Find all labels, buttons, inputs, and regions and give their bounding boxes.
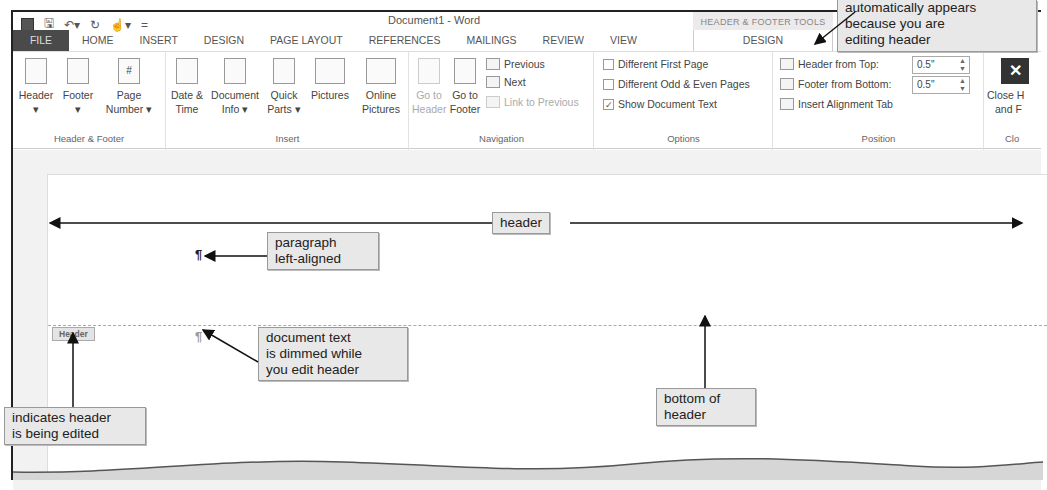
- go-to-header-button[interactable]: Go to Header: [412, 56, 446, 116]
- group-label-insert: Insert: [167, 133, 408, 144]
- tab-review[interactable]: REVIEW: [530, 30, 597, 51]
- previous-button[interactable]: Previous: [486, 58, 545, 70]
- callout-line: automatically appears: [845, 0, 1029, 16]
- header-button-label: Header: [15, 88, 57, 102]
- dropdown-arrow: ▾: [58, 102, 98, 116]
- footer-from-bottom-label-row: Footer from Bottom:: [780, 78, 891, 90]
- different-first-page-label: Different First Page: [618, 58, 708, 70]
- pictures-icon: [315, 58, 345, 84]
- close-header-footer-button[interactable]: ✕ Close H and F: [987, 56, 1047, 116]
- checkbox-unchecked-icon: [603, 79, 614, 90]
- page-number-label-1: Page: [101, 88, 157, 102]
- show-document-text-label: Show Document Text: [618, 98, 717, 110]
- header-icon: [25, 58, 47, 84]
- footer-from-bottom-value: 0.5": [917, 79, 934, 90]
- footer-position-icon: [780, 78, 794, 90]
- go-to-footer-label-1: Go to: [448, 88, 482, 102]
- header-from-top-input[interactable]: 0.5" ▲▼: [912, 56, 970, 74]
- header-from-top-label-row: Header from Top:: [780, 58, 879, 70]
- callout-document-text-dimmed: document text is dimmed while you edit h…: [258, 327, 408, 381]
- online-pictures-label-2: Pictures: [357, 102, 405, 116]
- previous-icon: [486, 58, 500, 70]
- quick-parts-label-1: Quick: [265, 88, 303, 102]
- date-time-button[interactable]: Date & Time: [169, 56, 205, 116]
- callout-line: you edit header: [266, 362, 400, 378]
- header-button[interactable]: Header ▾: [15, 56, 57, 116]
- callout-line: because you are: [845, 16, 1029, 32]
- pictures-button[interactable]: Pictures: [305, 56, 355, 102]
- ribbon: Header ▾ Footer ▾ # Page Number ▾ Header…: [13, 51, 1041, 149]
- tab-home[interactable]: HOME: [69, 30, 127, 51]
- different-first-page-checkbox[interactable]: Different First Page: [603, 58, 708, 70]
- link-to-previous-button[interactable]: Link to Previous: [486, 96, 579, 108]
- header-tab-label: Header: [52, 327, 95, 341]
- date-time-label-2: Time: [169, 102, 205, 116]
- dropdown-arrow: ▾: [15, 102, 57, 116]
- next-button[interactable]: Next: [486, 76, 526, 88]
- header-from-top-label: Header from Top:: [798, 58, 879, 70]
- paragraph-mark: ¶: [195, 247, 202, 262]
- group-position: Header from Top: 0.5" ▲▼ Footer from Bot…: [774, 52, 984, 150]
- go-to-header-label-1: Go to: [412, 88, 446, 102]
- callout-line: header: [664, 407, 748, 423]
- group-label-position: Position: [774, 133, 983, 144]
- spinner-arrows-icon[interactable]: ▲▼: [959, 57, 966, 73]
- previous-label: Previous: [504, 58, 545, 70]
- show-document-text-checkbox[interactable]: ✓ Show Document Text: [603, 98, 717, 110]
- spinner-arrows-icon[interactable]: ▲▼: [959, 77, 966, 93]
- tab-mailings[interactable]: MAILINGS: [453, 30, 529, 51]
- go-to-footer-button[interactable]: Go to Footer: [448, 56, 482, 116]
- callout-indicates-header-edited: indicates header is being edited: [4, 407, 146, 445]
- footer-button[interactable]: Footer ▾: [58, 56, 98, 116]
- page-number-button[interactable]: # Page Number ▾: [101, 56, 157, 116]
- footer-button-label: Footer: [58, 88, 98, 102]
- page-number-label-2: Number ▾: [101, 102, 157, 116]
- callout-line: document text: [266, 330, 400, 346]
- next-label: Next: [504, 76, 526, 88]
- online-pictures-button[interactable]: Online Pictures: [357, 56, 405, 116]
- tab-design[interactable]: DESIGN: [191, 30, 257, 51]
- dimmed-paragraph-mark: ¶: [195, 329, 202, 344]
- tab-insert[interactable]: INSERT: [127, 30, 191, 51]
- callout-paragraph-left-aligned: paragraph left-aligned: [267, 232, 379, 270]
- document-area: ¶ Header ¶: [13, 150, 1041, 490]
- document-info-label-1: Document: [207, 88, 263, 102]
- group-label-options: Options: [595, 133, 772, 144]
- document-info-label-2: Info ▾: [207, 102, 263, 116]
- go-to-header-icon: [418, 58, 440, 84]
- tab-references[interactable]: REFERENCES: [356, 30, 454, 51]
- callout-line: paragraph: [275, 235, 371, 251]
- group-label-header-footer: Header & Footer: [13, 133, 165, 144]
- link-to-previous-icon: [486, 96, 500, 108]
- torn-edge: [13, 450, 1043, 480]
- go-to-header-label-2: Header: [412, 102, 446, 116]
- callout-header: header: [492, 212, 550, 234]
- callout-line: indicates header: [12, 410, 138, 426]
- close-icon: ✕: [1001, 58, 1029, 84]
- tab-view[interactable]: VIEW: [597, 30, 650, 51]
- footer-from-bottom-input[interactable]: 0.5" ▲▼: [912, 76, 970, 94]
- quick-parts-label-2: Parts ▾: [265, 102, 303, 116]
- header-from-top-value: 0.5": [917, 59, 934, 70]
- footer-icon: [67, 58, 89, 84]
- group-navigation: Go to Header Go to Footer Previous Next …: [410, 52, 594, 150]
- group-options: Different First Page Different Odd & Eve…: [595, 52, 773, 150]
- quick-parts-button[interactable]: Quick Parts ▾: [265, 56, 303, 116]
- callout-line: is dimmed while: [266, 346, 400, 362]
- checkbox-checked-icon: ✓: [603, 99, 614, 110]
- tab-page-layout[interactable]: PAGE LAYOUT: [257, 30, 356, 51]
- insert-alignment-tab-button[interactable]: Insert Alignment Tab: [780, 98, 893, 110]
- callout-line: editing header: [845, 32, 1029, 48]
- callout-line: left-aligned: [275, 251, 371, 267]
- word-window: 🖫 ↶▾ ↻ ☝▾ = Document1 - Word HEADER & FO…: [11, 10, 1041, 480]
- tab-file[interactable]: FILE: [13, 30, 69, 51]
- quick-parts-icon: [273, 58, 295, 84]
- callout-contextual-tab: automatically appears because you are ed…: [837, 0, 1037, 52]
- online-pictures-label-1: Online: [357, 88, 405, 102]
- calendar-clock-icon: [176, 58, 198, 84]
- tab-header-footer-design[interactable]: DESIGN: [693, 30, 833, 51]
- online-pictures-icon: [366, 58, 396, 84]
- document-info-button[interactable]: Document Info ▾: [207, 56, 263, 116]
- group-label-navigation: Navigation: [410, 133, 593, 144]
- different-odd-even-checkbox[interactable]: Different Odd & Even Pages: [603, 78, 750, 90]
